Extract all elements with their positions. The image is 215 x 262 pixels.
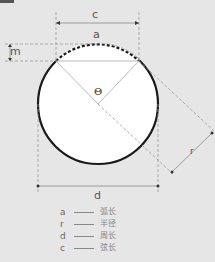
label-m: m xyxy=(10,45,21,58)
label-a: a xyxy=(93,28,100,41)
legend-item: r半径 xyxy=(60,218,116,230)
legend-item: a弧长 xyxy=(60,206,116,218)
label-r: r xyxy=(190,146,194,156)
legend: a弧长 r半径 d周长 c弦长 xyxy=(60,206,116,254)
label-c: c xyxy=(92,8,98,21)
title-mark xyxy=(0,0,14,3)
legend-item: c弦长 xyxy=(60,242,116,254)
label-theta: Θ xyxy=(94,86,102,97)
legend-item: d周长 xyxy=(60,230,116,242)
label-d: d xyxy=(94,189,101,202)
